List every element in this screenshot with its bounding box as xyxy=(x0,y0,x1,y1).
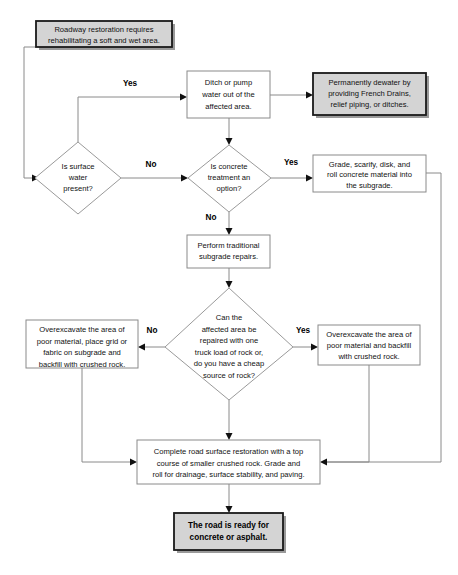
node-truckload-line-3: repaired with one xyxy=(200,336,258,345)
flowchart-canvas: Roadway restoration requires rehabilitat… xyxy=(0,0,458,575)
node-truckload-decision: Can the affected area be repaired with o… xyxy=(165,288,293,400)
node-start: Roadway restoration requires rehabilitat… xyxy=(36,21,175,50)
arrowhead-surface-water-no xyxy=(181,175,188,182)
edge-label-concrete-yes: Yes xyxy=(284,158,299,167)
node-truckload-line-4: truck load of rock or, xyxy=(195,348,263,357)
node-dewater-line-1: Permanently dewater by xyxy=(329,78,411,87)
node-road-ready-box xyxy=(174,513,283,550)
node-grade-scarify-line-3: the subgrade. xyxy=(346,181,392,190)
arrowhead-traditional-to-truckload xyxy=(226,281,233,288)
node-concrete-line-1: Is concrete xyxy=(210,162,247,171)
node-traditional-repairs: Perform traditional subgrade repairs. xyxy=(187,235,270,268)
flowchart-diagram: Roadway restoration requires rehabilitat… xyxy=(0,0,458,575)
node-road-ready-line-2: concrete or asphalt. xyxy=(190,533,268,542)
edge-label-surface-water-no: No xyxy=(146,160,157,169)
node-grade-scarify-line-2: roll concrete material into xyxy=(327,170,412,179)
edge-overexcavate-grid-to-complete xyxy=(82,368,130,462)
edge-surface-water-yes xyxy=(78,97,180,142)
node-traditional-repairs-line-1: Perform traditional xyxy=(197,241,259,250)
arrowhead-complete-to-road-ready xyxy=(226,506,233,513)
node-road-ready-line-1: The road is ready for xyxy=(188,521,270,530)
node-overexcavate-backfill: Overexcavate the area of poor material a… xyxy=(318,325,420,365)
node-start-line-2: rehabilitating a soft and wet area. xyxy=(48,36,160,45)
node-ditch-pump-line-2: water out of the xyxy=(201,90,254,99)
node-truckload-line-5: do you have a cheap xyxy=(194,359,265,368)
node-grade-scarify-line-1: Grade, scarify, disk, and xyxy=(329,160,410,169)
arrowhead-truckload-no xyxy=(138,344,145,351)
node-truckload-line-6: source of rock? xyxy=(203,371,255,380)
arrowhead-concrete-yes xyxy=(306,175,313,182)
node-road-ready: The road is ready for concrete or asphal… xyxy=(174,513,286,553)
node-ditch-pump-line-1: Ditch or pump xyxy=(205,78,252,87)
arrowhead-truckload-yes xyxy=(311,344,318,351)
node-complete-restoration-line-3: roll for drainage, surface stability, an… xyxy=(152,470,304,479)
edge-label-concrete-no: No xyxy=(206,213,217,222)
edge-label-truckload-yes: Yes xyxy=(296,326,311,335)
node-overexcavate-grid-line-2: poor material, place grid or xyxy=(37,337,128,346)
node-surface-water-line-3: present? xyxy=(63,184,93,193)
node-overexcavate-grid: Overexcavate the area of poor material, … xyxy=(26,320,138,369)
node-surface-water-line-1: Is surface xyxy=(62,162,95,171)
node-ditch-pump: Ditch or pump water out of the affected … xyxy=(187,71,270,118)
edge-overexcavate-backfill-to-complete xyxy=(327,365,369,462)
arrowhead-grade-to-complete xyxy=(320,459,327,466)
node-traditional-repairs-line-2: subgrade repairs. xyxy=(199,252,258,261)
node-overexcavate-backfill-line-2: poor material and backfill xyxy=(327,341,412,350)
node-truckload-line-2: affected area be xyxy=(202,325,257,334)
arrowhead-overexcavate-grid-to-complete xyxy=(130,459,137,466)
node-overexcavate-grid-line-4: backfill with crushed rock. xyxy=(39,360,126,369)
node-dewater-line-3: relief piping, or ditches. xyxy=(330,100,408,109)
node-overexcavate-backfill-line-3: with crushed rock. xyxy=(337,352,399,361)
edge-label-truckload-no: No xyxy=(147,326,158,335)
node-overexcavate-backfill-line-1: Overexcavate the area of xyxy=(326,330,412,339)
node-concrete-line-2: treatment an xyxy=(208,173,251,182)
edge-start-to-surface-water xyxy=(24,47,36,178)
node-ditch-pump-line-3: affected area. xyxy=(205,102,251,111)
node-surface-water-line-2: water xyxy=(68,173,88,182)
arrowhead-surface-water-yes xyxy=(180,94,187,101)
node-concrete-line-3: option? xyxy=(217,184,242,193)
node-dewater-line-2: providing French Drains, xyxy=(328,89,411,98)
arrowhead-truckload-to-complete xyxy=(226,433,233,440)
arrowhead-concrete-no xyxy=(226,228,233,235)
node-dewater: Permanently dewater by providing French … xyxy=(313,73,429,118)
node-grade-scarify: Grade, scarify, disk, and roll concrete … xyxy=(313,155,426,192)
edge-grade-to-complete xyxy=(327,173,441,462)
node-truckload-line-1: Can the xyxy=(216,313,243,322)
node-complete-restoration-line-2: course of smaller crushed rock. Grade an… xyxy=(157,459,301,468)
arrowhead-ditch-to-concrete xyxy=(226,138,233,145)
node-overexcavate-grid-line-1: Overexcavate the area of xyxy=(39,325,125,334)
node-complete-restoration: Complete road surface restoration with a… xyxy=(137,440,320,484)
arrowhead-ditch-to-dewater xyxy=(306,92,313,99)
edge-label-surface-water-yes: Yes xyxy=(123,79,138,88)
node-surface-water-decision: Is surface water present? xyxy=(35,142,121,214)
node-start-line-1: Roadway restoration requires xyxy=(54,25,153,34)
node-concrete-decision: Is concrete treatment an option? xyxy=(188,145,271,212)
node-overexcavate-grid-line-3: fabric on subgrade and xyxy=(43,348,121,357)
node-complete-restoration-line-1: Complete road surface restoration with a… xyxy=(154,447,303,456)
